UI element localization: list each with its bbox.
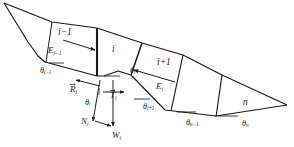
angle-label-theta-i-resultant: θi xyxy=(85,99,90,107)
E-i-minus-1-subscript: i−1 xyxy=(54,50,62,56)
slice-label-i: i xyxy=(112,45,115,55)
force-polygon-closure xyxy=(95,121,111,126)
N-i-subscript: i xyxy=(87,121,89,127)
E-i-arrow xyxy=(134,70,175,82)
E-i-minus-1-symbol: E xyxy=(48,45,54,55)
angle-label-theta-n: θn xyxy=(242,120,249,128)
slice-label-n: n xyxy=(243,98,248,108)
angle-label-theta-i-plus-1: θi+1 xyxy=(143,103,154,111)
N-i-arrow xyxy=(93,80,100,121)
R-i-subscript: i xyxy=(76,89,78,95)
theta-n-minus-1-subscript: n−1 xyxy=(190,121,199,127)
slice-label-i-minus-1: i−1 xyxy=(58,28,72,38)
angle-label-theta-i-minus-1: θi−1 xyxy=(40,67,51,75)
theta-i-res-subscript: i xyxy=(89,101,90,107)
T-i-subscript: i xyxy=(115,95,117,101)
theta-i-base-subscript: i xyxy=(134,69,135,75)
angle-label-theta-i-base: θi xyxy=(130,67,135,75)
slope-stability-figure: i−1 i i+1 n Ei−1 Ei Ri Ti Ni Wi θi xyxy=(0,0,294,147)
E-i-symbol: E xyxy=(156,81,162,91)
force-label-E-i-minus-1: Ei−1 xyxy=(48,46,62,55)
W-i-symbol: W xyxy=(112,130,120,140)
theta-i-minus-1-subscript: i−1 xyxy=(44,69,51,75)
force-label-N-i: Ni xyxy=(81,117,89,126)
slice-label-i-plus-1: i+1 xyxy=(157,58,171,68)
force-label-E-i: Ei xyxy=(156,82,163,91)
E-i-subscript: i xyxy=(162,86,164,92)
force-label-W-i: Wi xyxy=(112,131,121,140)
R-i-arrow xyxy=(76,80,100,86)
theta-i-plus-1-subscript: i+1 xyxy=(147,105,154,111)
theta-n-subscript: n xyxy=(246,122,249,128)
angle-label-theta-n-minus-1: θn−1 xyxy=(186,119,199,127)
force-label-R-i: Ri xyxy=(70,85,77,94)
R-i-symbol: R xyxy=(70,84,76,94)
force-label-T-i: Ti xyxy=(110,91,117,100)
W-i-subscript: i xyxy=(120,135,122,141)
E-i-minus-1-arrow xyxy=(63,40,95,50)
